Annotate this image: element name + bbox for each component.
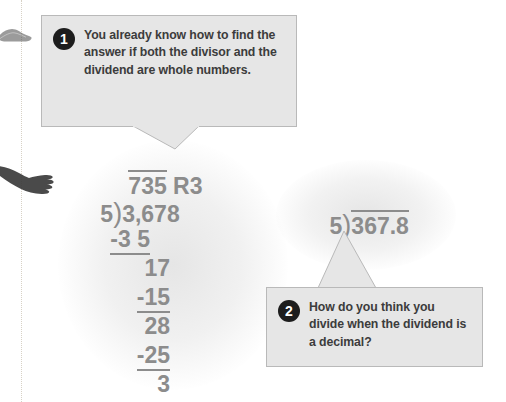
callout-2-text: How do you think you divide when the div… xyxy=(309,299,472,351)
division-step-6: 3 xyxy=(157,371,170,397)
division-step-1: -3 5 xyxy=(110,226,150,255)
callout-1-text: You already know how to find the answer … xyxy=(84,27,286,79)
callout-2-tail xyxy=(316,230,378,290)
worksheet-page: 1 You already know how to find the answe… xyxy=(0,0,506,402)
division-step-3: -15 xyxy=(137,284,170,313)
division-step-4: 28 xyxy=(144,313,170,339)
divisor-value: 5 xyxy=(100,201,113,227)
callout-box-1: 1 You already know how to find the answe… xyxy=(41,15,297,127)
callout-1-number-badge: 1 xyxy=(53,28,75,50)
division-step-5: -25 xyxy=(137,342,170,371)
division-step-2: 17 xyxy=(144,255,170,281)
callout-2-number-badge: 2 xyxy=(278,300,300,322)
hand-silhouette-icon xyxy=(0,158,54,200)
long-division-work: 735 R3 5)3,678 -3 5 17 -15 28 -25 3 xyxy=(62,146,203,373)
margin-dotted-rule xyxy=(21,0,22,402)
remainder-label: R3 xyxy=(173,173,202,199)
callout-box-2: 2 How do you think you divide when the d… xyxy=(266,287,483,367)
dividend-value: 3,678 xyxy=(122,201,180,227)
quotient-value: 735 xyxy=(128,170,166,199)
shoe-silhouette-icon xyxy=(0,26,32,44)
